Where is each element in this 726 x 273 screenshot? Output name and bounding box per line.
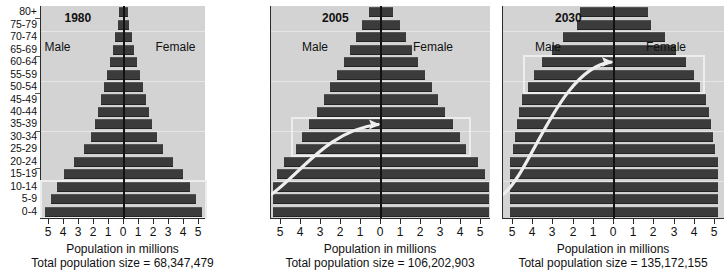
x-tick-label: 3 [666,225,682,239]
plot-area-1980 [40,6,205,218]
plot-area-2030 [502,6,724,218]
age-label-5-9: 5-9 [0,193,37,203]
x-tick [440,219,441,224]
bar-female-2005-60-64 [381,57,418,67]
x-tick-label: 5 [504,225,520,239]
x-tick [400,219,401,224]
x-tick [300,219,301,224]
bar-male-2030-55-59 [534,70,614,80]
bar-female-2005-5-9 [381,194,489,204]
male-label-2005: Male [302,40,328,54]
bar-male-1980-35-39 [95,119,124,129]
x-tick-label: 1 [100,225,116,239]
x-tick [573,219,574,224]
bar-male-2005-55-59 [337,70,381,80]
x-tick-label: 2 [565,225,581,239]
bar-male-2030-10-14 [510,182,614,192]
x-tick [340,219,341,224]
bar-female-1980-70-74 [124,32,132,42]
x-tick [593,219,594,224]
bar-male-2005-50-54 [330,82,381,92]
bar-female-1980-65-69 [124,45,135,55]
bar-female-1980-60-64 [124,57,138,67]
bar-female-2030-75-79 [614,20,651,30]
bar-female-2030-25-29 [614,144,715,154]
bar-male-2005-70-74 [356,32,381,42]
bar-female-1980-40-44 [124,107,150,117]
x-tick-label: 1 [352,225,368,239]
x-tick [48,219,49,224]
x-axis-title-2005: Population in millions [270,242,490,256]
age-label-25-29: 25-29 [0,143,37,153]
x-tick [63,219,64,224]
x-tick-label: 2 [332,225,348,239]
x-tick [123,219,124,224]
x-tick [280,219,281,224]
x-tick-label: 4 [175,225,191,239]
x-tick [108,219,109,224]
bar-female-2005-80+ [381,7,393,17]
x-tick-label: 4 [55,225,71,239]
x-tick-label: 1 [585,225,601,239]
x-tick-label: 3 [160,225,176,239]
age-label-45-49: 45-49 [0,94,37,104]
bar-female-1980-35-39 [124,119,153,129]
age-label-30-34: 30-34 [0,131,37,141]
x-tick [320,219,321,224]
bar-female-2030-80+ [614,7,648,17]
bar-male-1980-5-9 [51,194,124,204]
bar-male-2005-30-34 [302,132,381,142]
x-tick-label: 2 [85,225,101,239]
bar-male-2030-75-79 [577,20,614,30]
age-axis-tick [35,18,40,19]
female-label-2005: Female [413,40,453,54]
bar-male-2005-75-79 [362,20,381,30]
bar-male-2030-40-44 [519,107,614,117]
bar-female-1980-45-49 [124,94,147,104]
bar-female-2005-20-24 [381,157,478,167]
bar-female-2005-0-4 [381,207,489,217]
bar-male-2005-35-39 [309,119,381,129]
x-tick-label: 3 [312,225,328,239]
x-tick [480,219,481,224]
bar-male-1980-50-54 [104,82,124,92]
age-label-20-24: 20-24 [0,156,37,166]
x-tick-label: 4 [452,225,468,239]
age-axis-tick [35,131,40,132]
bar-female-2030-45-49 [614,94,706,104]
bar-male-1980-40-44 [98,107,124,117]
bar-male-2030-20-24 [510,157,614,167]
x-tick [380,219,381,224]
bar-female-1980-25-29 [124,144,164,154]
x-tick-label: 0 [115,225,131,239]
bar-female-2005-65-69 [381,45,412,55]
x-tick [198,219,199,224]
center-axis-2005 [380,6,382,218]
center-axis-1980 [123,6,125,218]
pyramid-panel-1980: 543210123451980MaleFemalePopulation in m… [40,0,211,273]
bar-male-1980-0-4 [45,207,124,217]
bar-male-2005-15-19 [277,169,381,179]
bar-male-2005-5-9 [273,194,381,204]
bar-male-2005-45-49 [324,94,381,104]
total-population-2005: Total population size = 106,202,903 [250,256,510,270]
age-label-60-64: 60-64 [0,56,37,66]
x-tick [183,219,184,224]
x-tick-label: 3 [70,225,86,239]
bar-female-2005-75-79 [381,20,400,30]
bar-female-2030-50-54 [614,82,700,92]
x-tick [420,219,421,224]
year-label-2005: 2005 [322,11,349,25]
bar-male-2030-80+ [580,7,614,17]
bar-female-1980-5-9 [124,194,197,204]
age-label-65-69: 65-69 [0,44,37,54]
age-axis-tick [35,168,40,169]
age-label-80+: 80+ [0,6,37,16]
age-label-0-4: 0-4 [0,206,37,216]
bar-male-1980-45-49 [101,94,124,104]
bar-male-1980-30-34 [91,132,124,142]
x-tick-label: 2 [412,225,428,239]
bar-male-1980-15-19 [64,169,123,179]
x-tick [153,219,154,224]
bar-female-2005-70-74 [381,32,406,42]
